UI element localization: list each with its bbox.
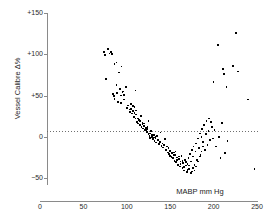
data-point: [175, 151, 177, 153]
data-point: [197, 161, 199, 163]
data-point: [202, 141, 204, 143]
data-point: [135, 114, 137, 116]
data-point: [156, 135, 158, 137]
data-point: [111, 53, 113, 55]
data-point: [212, 138, 214, 140]
data-point: [199, 133, 201, 135]
scatter-plot-figure: +150+100+500−50 Vessel Calibre Δ% 050100…: [0, 0, 269, 219]
data-point: [140, 115, 142, 117]
data-point: [198, 147, 200, 149]
data-point: [134, 106, 136, 108]
data-point: [147, 126, 149, 128]
data-point: [122, 91, 124, 93]
data-point: [188, 157, 190, 159]
data-point: [235, 32, 237, 34]
data-point: [214, 129, 216, 131]
data-point: [208, 130, 210, 132]
data-point: [176, 159, 178, 161]
data-point: [184, 159, 186, 161]
data-point: [135, 110, 137, 112]
data-point: [220, 157, 222, 159]
data-point: [224, 152, 226, 154]
data-point: [130, 108, 132, 110]
data-point: [199, 156, 201, 158]
data-point: [202, 146, 204, 148]
data-point: [185, 161, 187, 163]
data-point: [131, 113, 133, 115]
data-point: [114, 98, 116, 100]
data-point: [217, 44, 219, 46]
data-point: [215, 146, 217, 148]
data-point: [213, 81, 215, 83]
data-point: [123, 94, 125, 96]
data-point: [114, 63, 116, 65]
data-point: [107, 48, 109, 50]
data-point: [182, 162, 184, 164]
data-point: [160, 132, 162, 134]
data-point: [178, 158, 180, 160]
data-point: [195, 151, 197, 153]
data-point: [185, 165, 187, 167]
data-point: [113, 95, 115, 97]
data-point: [126, 107, 128, 109]
data-point: [173, 152, 175, 154]
data-point: [134, 112, 136, 114]
data-point: [163, 144, 165, 146]
data-point: [117, 101, 119, 103]
data-point: [171, 157, 173, 159]
data-point: [181, 155, 183, 157]
data-point: [205, 133, 207, 135]
data-point: [204, 149, 206, 151]
data-point: [227, 140, 229, 142]
data-point: [195, 143, 197, 145]
data-point: [209, 139, 211, 141]
data-point: [247, 99, 249, 101]
data-point: [168, 147, 170, 149]
data-point: [232, 65, 234, 67]
data-point: [206, 120, 208, 122]
data-point: [147, 128, 149, 130]
data-point: [203, 124, 205, 126]
data-point: [183, 170, 185, 172]
data-point: [155, 136, 157, 138]
data-point: [178, 156, 180, 158]
data-point: [188, 168, 190, 170]
data-point: [201, 151, 203, 153]
data-point: [190, 161, 192, 163]
data-point: [119, 88, 121, 90]
data-point: [127, 105, 129, 107]
data-point: [158, 143, 160, 145]
data-point: [109, 53, 111, 55]
data-point: [180, 163, 182, 165]
data-point: [194, 170, 196, 172]
data-point: [116, 92, 118, 94]
data-point: [201, 136, 203, 138]
data-point: [162, 147, 164, 149]
data-point: [132, 105, 134, 107]
data-point: [116, 62, 118, 64]
data-point: [190, 172, 192, 174]
data-point: [223, 73, 225, 75]
data-point: [139, 120, 141, 122]
data-point: [130, 103, 132, 105]
data-point: [192, 167, 194, 169]
data-point: [210, 121, 212, 123]
data-point: [218, 136, 220, 138]
data-point: [191, 149, 193, 151]
data-point: [193, 146, 195, 148]
data-point: [155, 138, 157, 140]
data-point: [175, 154, 177, 156]
data-point: [164, 138, 166, 140]
data-point: [197, 138, 199, 140]
data-point: [120, 102, 122, 104]
data-point: [208, 118, 210, 120]
data-point: [135, 118, 137, 120]
data-point: [145, 129, 147, 131]
data-point: [146, 131, 148, 133]
data-point: [201, 128, 203, 130]
data-point: [150, 130, 152, 132]
data-point: [103, 51, 105, 53]
data-point: [118, 72, 120, 74]
data-point: [110, 51, 112, 53]
data-point: [159, 141, 161, 143]
